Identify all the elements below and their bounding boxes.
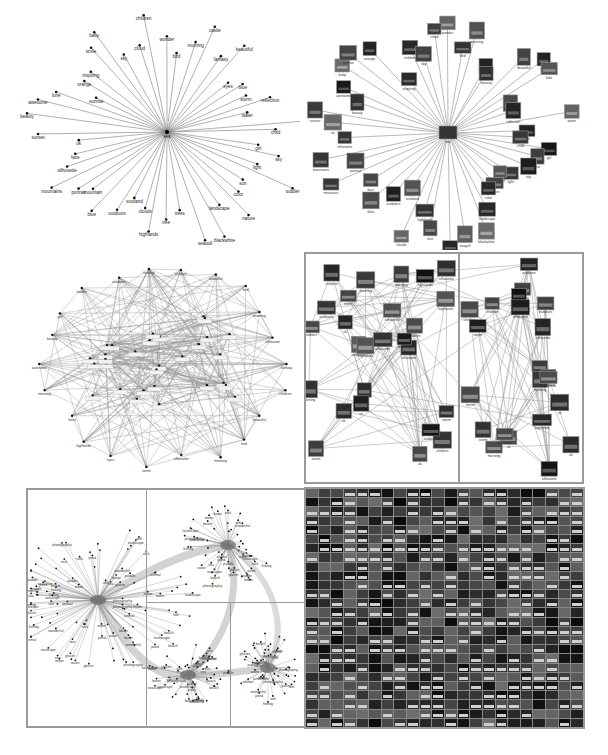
photo-tile	[521, 553, 533, 561]
photo-tile	[546, 618, 558, 626]
photo-tile	[394, 553, 406, 561]
tile-caption	[433, 539, 443, 542]
photo-tile	[432, 581, 444, 589]
tile-caption	[560, 705, 570, 708]
tag-node: wonderful	[251, 689, 266, 694]
tile-caption	[433, 548, 443, 551]
tag-node	[254, 647, 256, 649]
photo-tile	[420, 553, 432, 561]
svg-text:beauty: beauty	[352, 111, 363, 115]
tile-caption	[332, 502, 342, 505]
tag-node	[206, 700, 208, 702]
photo-tile	[319, 507, 331, 515]
tile-caption	[509, 695, 519, 698]
svg-text:castle: castle	[209, 28, 221, 33]
photo-tile	[470, 599, 482, 607]
tag-node: face	[71, 153, 80, 160]
tile-caption	[395, 668, 405, 671]
tag-node	[94, 566, 96, 568]
photo-tile	[521, 590, 533, 598]
photo-tile	[407, 590, 419, 598]
tile-caption	[497, 530, 507, 533]
tile-caption	[307, 695, 317, 698]
tile-caption	[383, 677, 393, 680]
tile-caption	[484, 668, 494, 671]
photo-tile	[533, 507, 545, 515]
panel-f-photo-mosaic	[304, 487, 585, 729]
photo-tile	[394, 608, 406, 616]
svg-text:trees: trees	[175, 211, 186, 216]
tag-node: photography	[113, 604, 133, 609]
tag-node	[213, 674, 215, 676]
svg-text:portrait: portrait	[350, 169, 361, 173]
image-node: highlands	[357, 338, 374, 359]
photo-tile	[331, 507, 343, 515]
image-node: silhouette	[511, 300, 529, 320]
photo-tile	[496, 489, 508, 497]
svg-text:photography: photography	[52, 543, 72, 547]
svg-text:silhouette: silhouette	[174, 457, 189, 461]
photo-tile	[407, 608, 419, 616]
image-node: beautiful	[517, 49, 530, 71]
photo-tile	[483, 719, 495, 727]
tag-node: photography	[124, 661, 144, 666]
tile-caption	[572, 705, 582, 708]
tag-node: cloud	[134, 44, 145, 51]
photo-tile	[458, 590, 470, 598]
svg-text:blackwhite: blackwhite	[478, 240, 494, 244]
photo-tile	[382, 673, 394, 681]
photo-tile	[559, 590, 571, 598]
svg-text:fantasy: fantasy	[480, 81, 492, 85]
photo-tile	[508, 719, 520, 727]
image-node: blue	[363, 192, 380, 214]
photo-tile	[306, 563, 318, 571]
photo-tile	[344, 581, 356, 589]
image-node: highlands	[437, 291, 455, 311]
image-node: uk	[563, 437, 579, 458]
tile-caption	[408, 502, 418, 505]
photo-tile	[306, 544, 318, 552]
photo-tile	[470, 517, 482, 525]
photo-tile	[533, 710, 545, 718]
svg-text:highlands: highlands	[417, 218, 432, 222]
photo-tile	[483, 599, 495, 607]
photo-tile	[533, 700, 545, 708]
photo-tile	[546, 710, 558, 718]
photo-tile	[533, 618, 545, 626]
photo-tile	[382, 710, 394, 718]
tile-caption	[560, 640, 570, 643]
photo-tile	[344, 618, 356, 626]
photo-tile	[344, 498, 356, 506]
svg-text:smile: smile	[86, 49, 97, 54]
photo-tile	[470, 719, 482, 727]
tag-node	[171, 590, 173, 592]
svg-text:outdoors: outdoors	[108, 211, 126, 216]
photo-tile	[508, 691, 520, 699]
image-node: children	[324, 265, 340, 286]
tag-node	[249, 579, 251, 581]
svg-text:highlands: highlands	[358, 354, 373, 358]
tile-caption	[345, 677, 355, 680]
image-node: portrait	[347, 153, 364, 173]
photo-tile	[533, 664, 545, 672]
photo-tile	[432, 498, 444, 506]
photo-tile	[521, 618, 533, 626]
photo-tile	[445, 599, 457, 607]
svg-text:moon: moon	[74, 585, 83, 589]
photo-tile	[369, 691, 381, 699]
photo-tile	[508, 590, 520, 598]
photo-tile	[407, 489, 419, 497]
photo-tile	[546, 627, 558, 635]
tag-node	[184, 665, 186, 667]
image-node: outdoors	[537, 297, 554, 315]
image-node: uk	[336, 404, 351, 423]
svg-text:mountain: mountain	[324, 191, 338, 195]
tag-node	[206, 540, 208, 542]
hub-node	[90, 595, 106, 605]
photo-tile	[445, 526, 457, 534]
photo-tile	[508, 673, 520, 681]
svg-text:landscape: landscape	[185, 593, 201, 597]
photo-tile	[344, 599, 356, 607]
tag-node	[270, 643, 272, 645]
tag-node: beach	[164, 630, 174, 635]
